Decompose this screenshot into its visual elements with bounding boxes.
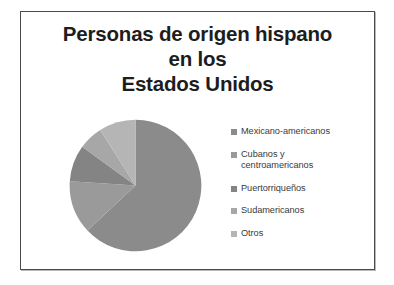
legend-item-label: Mexicano-americanos	[241, 126, 330, 138]
title-line-3: Estados Unidos	[21, 71, 374, 96]
title-line-1: Personas de origen hispano	[21, 21, 374, 46]
legend-swatch-icon	[231, 186, 237, 192]
legend-item[interactable]: Cubanos y centroamericanos	[231, 149, 371, 172]
legend-item-label: Puertorriqueños	[241, 183, 306, 195]
chart-legend: Mexicano-americanosCubanos y centroameri…	[231, 126, 371, 239]
legend-swatch-icon	[231, 129, 237, 135]
legend-swatch-icon	[231, 208, 237, 214]
pie-slice-group	[70, 120, 202, 252]
pie-chart-svg	[69, 119, 202, 252]
legend-item[interactable]: Sudamericanos	[231, 205, 371, 217]
legend-item[interactable]: Otros	[231, 228, 371, 240]
slide-canvas: Personas de origen hispano en los Estado…	[0, 0, 394, 285]
page-title: Personas de origen hispano en los Estado…	[21, 21, 374, 96]
legend-item[interactable]: Puertorriqueños	[231, 183, 371, 195]
title-line-2: en los	[21, 46, 374, 71]
legend-swatch-icon	[231, 231, 237, 237]
legend-item-label: Sudamericanos	[241, 205, 304, 217]
legend-item-label: Cubanos y centroamericanos	[241, 149, 313, 172]
legend-swatch-icon	[231, 152, 237, 158]
legend-item-label: Otros	[241, 228, 263, 240]
pie-chart	[69, 119, 202, 252]
legend-item[interactable]: Mexicano-americanos	[231, 126, 371, 138]
